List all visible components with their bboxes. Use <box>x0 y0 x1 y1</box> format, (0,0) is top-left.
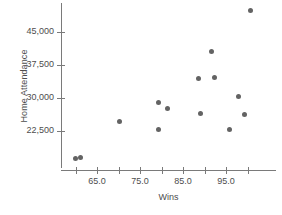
data-point <box>227 127 232 132</box>
x-minor-tick-mark <box>205 167 206 174</box>
data-point <box>242 112 247 117</box>
y-tick-label: 22,500 <box>8 125 54 135</box>
data-point <box>198 111 203 116</box>
x-tick-mark <box>226 167 227 174</box>
x-axis-line <box>61 170 276 171</box>
data-point <box>236 94 241 99</box>
x-tick-mark <box>183 167 184 174</box>
y-tick-mark <box>57 65 65 66</box>
x-minor-tick-mark <box>119 167 120 174</box>
x-axis-title: Wins <box>61 192 276 202</box>
data-point <box>78 155 83 160</box>
x-minor-tick-mark <box>248 167 249 174</box>
x-minor-tick-mark <box>76 167 77 174</box>
data-point <box>156 100 161 105</box>
data-point <box>117 119 122 124</box>
x-tick-label: 85.0 <box>163 176 203 186</box>
y-axis-line <box>61 3 62 168</box>
data-point <box>73 156 78 161</box>
x-tick-mark <box>97 167 98 174</box>
x-tick-label: 95.0 <box>206 176 246 186</box>
data-point <box>165 106 170 111</box>
scatter-chart: Home Attendance 22,50030,00037,50045,000… <box>0 0 282 215</box>
y-tick-label: 30,000 <box>8 92 54 102</box>
y-tick-label: 45,000 <box>8 26 54 36</box>
y-tick-mark <box>57 131 65 132</box>
y-tick-label: 37,500 <box>8 59 54 69</box>
data-point <box>209 49 214 54</box>
x-tick-label: 75.0 <box>120 176 160 186</box>
data-point <box>248 8 253 13</box>
data-point <box>196 76 201 81</box>
data-point <box>212 75 217 80</box>
y-axis-tick-labels: 22,50030,00037,50045,000 <box>8 0 54 172</box>
x-tick-label: 65.0 <box>77 176 117 186</box>
x-tick-mark <box>140 167 141 174</box>
x-minor-tick-mark <box>162 167 163 174</box>
y-tick-mark <box>57 32 65 33</box>
data-point <box>156 127 161 132</box>
y-tick-mark <box>57 98 65 99</box>
